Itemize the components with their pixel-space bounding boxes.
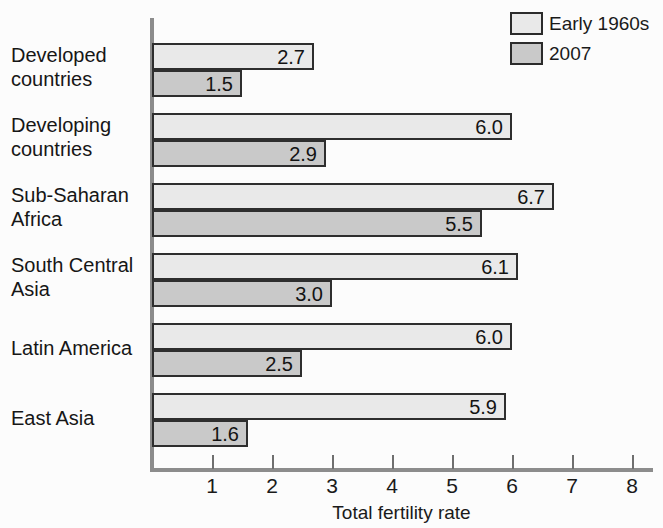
category-label-south-central-asia: South Central Asia <box>11 254 149 301</box>
category-label-east-asia: East Asia <box>11 407 149 431</box>
category-label-line1: South Central <box>11 254 149 278</box>
x-tick-label-1: 1 <box>197 475 227 496</box>
bar-value-label: 6.0 <box>475 117 510 137</box>
category-label-line1: Sub-Saharan <box>11 184 149 208</box>
bar-sub-saharan-africa-early-1960s: 6.7 <box>152 183 554 210</box>
bar-latin-america-2007: 2.5 <box>152 350 302 377</box>
category-label-line2: countries <box>11 68 149 92</box>
x-tick-7 <box>572 455 574 469</box>
x-tick-2 <box>272 455 274 469</box>
bar-value-label: 6.1 <box>481 257 516 277</box>
bar-value-label: 6.7 <box>517 187 552 207</box>
bar-south-central-asia-early-1960s: 6.1 <box>152 253 518 280</box>
x-tick-label-8: 8 <box>617 475 647 496</box>
bar-value-label: 1.6 <box>211 424 246 444</box>
category-label-line1: Developing <box>11 114 149 138</box>
x-tick-3 <box>332 455 334 469</box>
bar-value-label: 5.5 <box>445 214 480 234</box>
bar-sub-saharan-africa-2007: 5.5 <box>152 210 482 237</box>
bar-developing-countries-early-1960s: 6.0 <box>152 113 512 140</box>
x-tick-label-3: 3 <box>317 475 347 496</box>
x-tick-label-2: 2 <box>257 475 287 496</box>
x-axis-title: Total fertility rate <box>150 503 653 522</box>
bar-developed-countries-2007: 1.5 <box>152 70 242 97</box>
x-tick-8 <box>632 455 634 469</box>
bar-value-label: 5.9 <box>469 397 504 417</box>
bar-developing-countries-2007: 2.9 <box>152 140 326 167</box>
bar-value-label: 2.7 <box>277 47 312 67</box>
x-tick-label-5: 5 <box>437 475 467 496</box>
x-tick-5 <box>452 455 454 469</box>
category-label-line1: East Asia <box>11 407 149 431</box>
category-label-latin-america: Latin America <box>11 337 149 361</box>
bar-value-label: 6.0 <box>475 327 510 347</box>
bar-value-label: 1.5 <box>205 74 240 94</box>
bar-value-label: 2.9 <box>289 144 324 164</box>
x-tick-label-7: 7 <box>557 475 587 496</box>
category-label-line2: Asia <box>11 278 149 302</box>
bar-east-asia-early-1960s: 5.9 <box>152 393 506 420</box>
x-tick-label-4: 4 <box>377 475 407 496</box>
category-label-line1: Developed <box>11 44 149 68</box>
bar-latin-america-early-1960s: 6.0 <box>152 323 512 350</box>
category-label-line2: Africa <box>11 208 149 232</box>
bar-developed-countries-early-1960s: 2.7 <box>152 43 314 70</box>
category-label-sub-saharan-africa: Sub-Saharan Africa <box>11 184 149 231</box>
bar-value-label: 3.0 <box>295 284 330 304</box>
plot-area: Developed countries Developing countries… <box>0 0 663 528</box>
category-label-developing-countries: Developing countries <box>11 114 149 161</box>
x-tick-4 <box>392 455 394 469</box>
category-label-line2: countries <box>11 138 149 162</box>
x-tick-label-6: 6 <box>497 475 527 496</box>
category-label-line1: Latin America <box>11 337 149 361</box>
bar-south-central-asia-2007: 3.0 <box>152 280 332 307</box>
fertility-rate-bar-chart: Early 1960s 2007 Developed countries Dev… <box>0 0 663 528</box>
category-label-developed-countries: Developed countries <box>11 44 149 91</box>
bar-value-label: 2.5 <box>265 354 300 374</box>
x-tick-6 <box>512 455 514 469</box>
bar-east-asia-2007: 1.6 <box>152 420 248 447</box>
x-axis-line <box>150 468 653 472</box>
x-tick-1 <box>212 455 214 469</box>
